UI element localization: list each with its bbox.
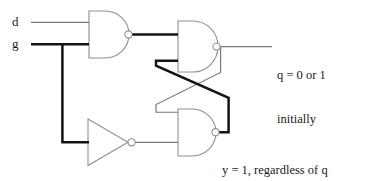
annotation-y-output: y = 1, regardless of q (because g' = 0) bbox=[222, 133, 328, 181]
annotation-q-line-2: initially bbox=[277, 112, 326, 127]
nand-top-right-bubble-icon bbox=[213, 43, 220, 50]
annotation-q-line-1: q = 0 or 1 bbox=[277, 68, 326, 83]
wire-g-branch-to-inverter bbox=[62, 44, 89, 142]
gate-inverter bbox=[88, 119, 135, 166]
input-label-d: d bbox=[12, 14, 19, 29]
annotation-y-line-1: y = 1, regardless of q bbox=[222, 163, 328, 178]
inverter-bubble-icon bbox=[128, 139, 135, 146]
gate-nand-top-left bbox=[89, 11, 132, 58]
gate-nand-top-right bbox=[178, 21, 220, 72]
nand-bottom-right-bubble-icon bbox=[212, 129, 219, 136]
input-label-g: g bbox=[12, 36, 19, 51]
nand-top-left-bubble-icon bbox=[125, 31, 132, 38]
logic-circuit-diagram: d g q = 0 or 1 initially y = 1, regardle… bbox=[0, 0, 377, 181]
gate-nand-bottom-right bbox=[178, 109, 219, 156]
